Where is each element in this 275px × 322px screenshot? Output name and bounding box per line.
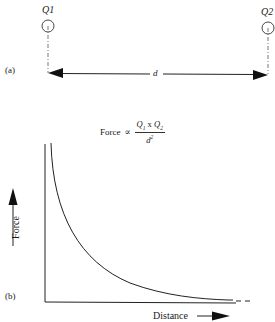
arrowhead-left-icon bbox=[48, 68, 63, 78]
formula-numerator: Q1 x Q2 bbox=[135, 119, 165, 133]
distance-d-label: d bbox=[153, 69, 158, 78]
arrowhead-right-icon bbox=[253, 70, 268, 80]
charge-q1-label: Q1 bbox=[42, 5, 54, 15]
formula-denominator: d2 bbox=[146, 133, 153, 145]
charge-q2-label: Q2 bbox=[261, 7, 273, 17]
coulomb-formula: Force ∝ Q1 x Q2 d2 bbox=[100, 119, 165, 145]
arrow-right-icon bbox=[212, 312, 230, 321]
force-curve bbox=[51, 143, 228, 300]
proportional-symbol: ∝ bbox=[125, 127, 131, 137]
distance-arrow bbox=[48, 68, 268, 80]
formula-lhs: Force bbox=[100, 127, 121, 137]
panel-b-label: (b) bbox=[5, 292, 16, 301]
formula-fraction: Q1 x Q2 d2 bbox=[135, 119, 165, 145]
x-axis bbox=[45, 302, 236, 303]
arrow-up-icon bbox=[9, 188, 18, 205]
y-axis-label: Force bbox=[10, 216, 21, 239]
diagram-canvas bbox=[0, 0, 275, 322]
x-axis-label: Distance bbox=[153, 311, 188, 321]
panel-a-label: (a) bbox=[5, 66, 15, 75]
